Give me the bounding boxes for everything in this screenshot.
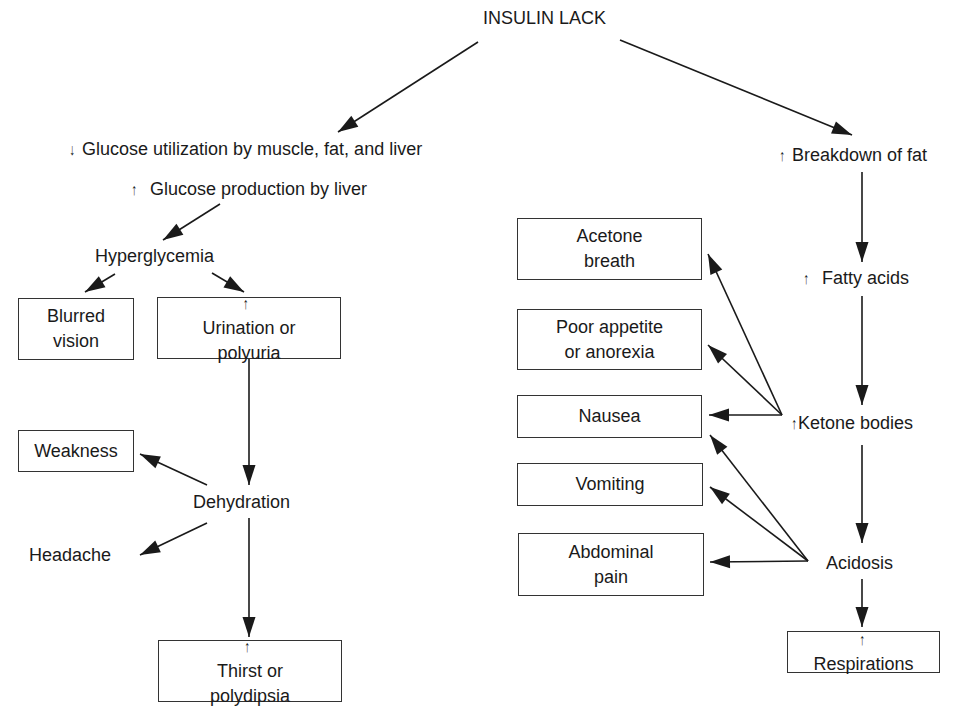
breakdown-of-fat-label: ↑Breakdown of fat [778, 143, 927, 168]
arrowhead-icon [856, 523, 869, 543]
arrow-ketone-to-acetone [708, 254, 782, 415]
box-line: ↑Urination or [202, 291, 295, 341]
acidosis-label: Acidosis [826, 551, 893, 576]
arrowhead-icon [856, 385, 869, 405]
box-line: Acetone [576, 224, 642, 249]
up-arrow-icon: ↑ [216, 291, 277, 316]
hyperglycemia-label: Hyperglycemia [95, 244, 214, 269]
glucose-utilization-text: Glucose utilization by muscle, fat, and … [82, 139, 422, 159]
arrowhead-icon [710, 555, 730, 568]
arrowhead-icon [708, 254, 722, 275]
nausea-box: Nausea [517, 395, 702, 438]
up-arrow-icon: ↑ [131, 177, 137, 202]
acetone-breath-box: Acetone breath [517, 218, 702, 280]
up-arrow-icon: ↑ [779, 143, 785, 168]
urination-box: ↑Urination or polyuria [157, 297, 341, 359]
breakdown-text: Breakdown of fat [792, 145, 927, 165]
arrowhead-icon [140, 541, 161, 555]
box-line: Nausea [578, 404, 640, 429]
urination-text: Urination or [202, 316, 295, 341]
box-line: vision [53, 329, 99, 354]
box-line: Abdominal [568, 540, 653, 565]
up-arrow-icon: ↑ [791, 411, 797, 436]
box-line: Weakness [34, 439, 118, 464]
arrowhead-icon [856, 242, 869, 262]
poor-appetite-box: Poor appetite or anorexia [517, 309, 702, 370]
headache-label: Headache [29, 543, 111, 568]
arrowhead-icon [709, 409, 729, 422]
fatty-acids-label: ↑Fatty acids [802, 266, 909, 291]
thirst-box: ↑Thirst or polydipsia [158, 640, 342, 702]
root-insulin-lack: INSULIN LACK [483, 6, 606, 31]
glucose-utilization-label: ↓Glucose utilization by muscle, fat, and… [68, 137, 422, 162]
blurred-vision-box: Blurred vision [18, 298, 134, 360]
box-line: Vomiting [575, 472, 644, 497]
abdominal-pain-box: Abdominal pain [518, 533, 704, 596]
respirations-box: ↑Respirations [787, 631, 940, 673]
box-line: Poor appetite [556, 315, 663, 340]
arrowhead-icon [831, 121, 852, 135]
dehydration-label: Dehydration [193, 490, 290, 515]
box-line: ↑Thirst or [217, 634, 283, 684]
up-arrow-icon: ↑ [828, 627, 897, 652]
arrow-insulin-to-fat [620, 40, 852, 135]
thirst-text: Thirst or [217, 659, 283, 684]
vomiting-box: Vomiting [517, 463, 703, 506]
arrow-insulin-to-glucose [338, 42, 478, 132]
box-line: or anorexia [564, 340, 654, 365]
glucose-production-label: ↑Glucose production by liver [130, 177, 367, 202]
ketone-text: Ketone bodies [798, 413, 913, 433]
up-arrow-icon: ↑ [226, 634, 268, 659]
arrowhead-icon [140, 454, 161, 468]
box-line: pain [594, 565, 628, 590]
arrowhead-icon [710, 487, 730, 504]
box-line: ↑Respirations [813, 627, 913, 677]
arrowhead-icon [85, 276, 105, 292]
respirations-text: Respirations [813, 652, 913, 677]
arrowhead-icon [338, 116, 358, 132]
weakness-box: Weakness [18, 430, 134, 472]
up-arrow-icon: ↑ [803, 266, 809, 291]
flow-arrows [0, 0, 960, 712]
arrowhead-icon [243, 465, 256, 485]
ketone-bodies-label: ↑Ketone bodies [790, 411, 913, 436]
fatty-acids-text: Fatty acids [822, 268, 909, 288]
down-arrow-icon: ↓ [69, 137, 75, 162]
box-line: breath [584, 249, 635, 274]
arrowhead-icon [163, 224, 183, 240]
glucose-production-text: Glucose production by liver [150, 179, 367, 199]
arrowhead-icon [856, 607, 869, 627]
box-line: polyuria [217, 341, 280, 366]
box-line: polydipsia [210, 684, 290, 709]
arrowhead-icon [710, 435, 727, 455]
box-line: Blurred [47, 304, 105, 329]
